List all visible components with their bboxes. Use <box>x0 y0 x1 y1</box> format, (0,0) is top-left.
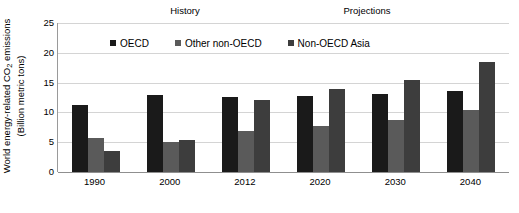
bar-2000-series-2 <box>163 142 179 172</box>
legend-item-non-oecd-asia: Non-OECD Asia <box>288 38 370 49</box>
legend-item-oecd: OECD <box>110 38 149 49</box>
y-tick-5: 5 <box>30 137 54 147</box>
bar-2040-series-3 <box>479 62 495 172</box>
x-tick-2040: 2040 <box>435 176 505 188</box>
bar-1990-series-2 <box>88 138 104 172</box>
y-axis-title-line-1: World energy-related CO2 emissions <box>1 18 15 172</box>
bar-1990-series-1 <box>72 105 88 172</box>
y-tick-20: 20 <box>30 48 54 58</box>
x-tick-2020: 2020 <box>285 176 355 188</box>
y-axis-title-text-tail: emissions <box>1 18 12 63</box>
bar-2000-series-1 <box>147 95 163 172</box>
co2-emissions-bar-chart: World energy-related CO2 emissions (Bill… <box>0 0 519 213</box>
bar-2012-series-2 <box>238 131 254 172</box>
x-axis-line <box>58 172 509 173</box>
bar-2020-series-3 <box>329 89 345 172</box>
y-axis-tick-labels: 25 20 15 10 5 0 <box>26 0 54 213</box>
annotation-projections: Projections <box>322 5 412 17</box>
y-axis-title-line-2: (Billion metric tons) <box>15 18 26 172</box>
bar-2030-series-2 <box>388 120 404 172</box>
y-tick-0: 0 <box>30 167 54 177</box>
y-tick-25: 25 <box>30 18 54 28</box>
bar-2020-series-2 <box>313 126 329 172</box>
y-axis-title-subscript: 2 <box>5 63 14 67</box>
bar-2030-series-1 <box>372 94 388 172</box>
bar-group-2040 <box>447 23 495 172</box>
y-axis-title: World energy-related CO2 emissions (Bill… <box>0 18 26 173</box>
y-tick-15: 15 <box>30 78 54 88</box>
y-tick-10: 10 <box>30 107 54 117</box>
bar-group-2030 <box>372 23 420 172</box>
bar-1990-series-3 <box>104 151 120 172</box>
legend-label-other-non-oecd: Other non-OECD <box>185 38 262 49</box>
x-tick-2030: 2030 <box>360 176 430 188</box>
bar-2000-series-3 <box>179 140 195 172</box>
legend-item-other-non-oecd: Other non-OECD <box>175 38 262 49</box>
x-tick-2000: 2000 <box>135 176 205 188</box>
bar-2040-series-1 <box>447 91 463 172</box>
x-tick-1990: 1990 <box>60 176 130 188</box>
x-axis-tick-labels: 199020002012202020302040 <box>57 176 508 192</box>
bar-2012-series-3 <box>254 100 270 172</box>
bar-2012-series-1 <box>222 97 238 172</box>
x-tick-2012: 2012 <box>210 176 280 188</box>
bar-2030-series-3 <box>404 80 420 172</box>
bar-2040-series-2 <box>463 110 479 172</box>
legend-label-oecd: OECD <box>120 38 149 49</box>
legend-swatch-non-oecd-asia <box>288 40 294 46</box>
legend-label-non-oecd-asia: Non-OECD Asia <box>298 38 370 49</box>
y-axis-title-text: World energy-related CO <box>1 67 12 172</box>
bar-2020-series-1 <box>297 96 313 172</box>
chart-legend: OECD Other non-OECD Non-OECD Asia <box>110 36 370 50</box>
legend-swatch-other-non-oecd <box>175 40 181 46</box>
legend-swatch-oecd <box>110 40 116 46</box>
annotation-history: History <box>140 5 230 17</box>
